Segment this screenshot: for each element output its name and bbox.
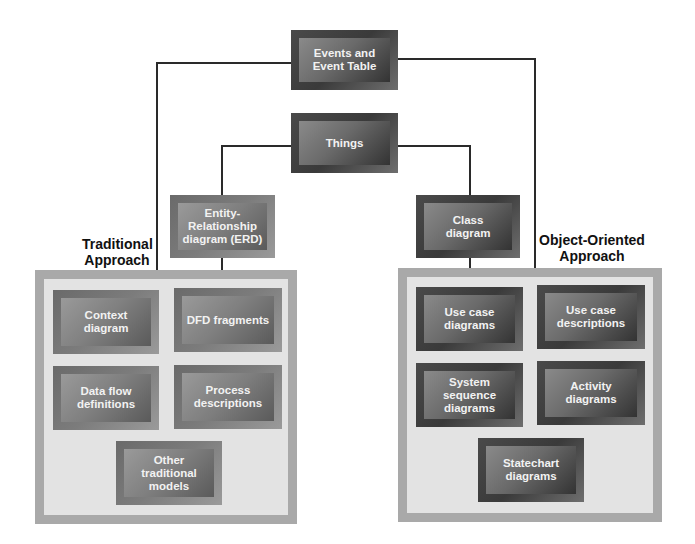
class-node: Class diagram — [416, 195, 520, 258]
connector-events-to-traditional-vertical — [156, 62, 158, 270]
other-traditional-models-label: Other traditional models — [124, 449, 214, 497]
connector-events-to-oo-vertical — [534, 58, 536, 268]
dfd-fragments-label: DFD fragments — [182, 296, 274, 344]
connector-events-to-oo — [398, 58, 535, 60]
context-diagram-node: Context diagram — [53, 290, 159, 354]
erd-label: Entity- Relationship diagram (ERD) — [178, 203, 267, 250]
other-traditional-models-node: Other traditional models — [116, 441, 222, 505]
activity-diagrams-node: Activity diagrams — [537, 361, 645, 425]
system-sequence-diagrams-label: System sequence diagrams — [424, 371, 515, 419]
data-flow-definitions-node: Data flow definitions — [53, 366, 159, 430]
dfd-fragments-node: DFD fragments — [174, 288, 282, 352]
traditional-container: Context diagram DFD fragments Data flow … — [35, 270, 297, 524]
traditional-approach-label: Traditional Approach — [82, 236, 152, 268]
object-oriented-panel: Use case diagrams Use case descriptions … — [407, 277, 653, 513]
use-case-descriptions-label: Use case descriptions — [545, 293, 637, 341]
events-label: Events and Event Table — [299, 38, 390, 82]
connector-events-to-traditional — [156, 62, 292, 64]
statechart-diagrams-label: Statechart diagrams — [486, 446, 576, 494]
activity-diagrams-label: Activity diagrams — [545, 369, 637, 417]
use-case-descriptions-node: Use case descriptions — [537, 285, 645, 349]
things-label: Things — [299, 121, 390, 165]
context-diagram-label: Context diagram — [61, 298, 151, 346]
connector-things-to-class — [398, 145, 470, 147]
use-case-diagrams-node: Use case diagrams — [416, 287, 523, 351]
connector-erd-to-traditional — [221, 258, 223, 270]
connector-things-to-class-vertical — [469, 145, 471, 195]
things-node: Things — [291, 113, 398, 173]
process-descriptions-label: Process descriptions — [182, 373, 274, 421]
process-descriptions-node: Process descriptions — [174, 365, 282, 429]
connector-class-to-oo — [469, 258, 471, 268]
object-oriented-approach-label: Object-Oriented Approach — [537, 232, 647, 264]
statechart-diagrams-node: Statechart diagrams — [478, 438, 584, 502]
events-node: Events and Event Table — [291, 30, 398, 90]
traditional-panel: Context diagram DFD fragments Data flow … — [44, 279, 288, 515]
data-flow-definitions-label: Data flow definitions — [61, 374, 151, 422]
connector-things-to-erd — [221, 145, 292, 147]
erd-node: Entity- Relationship diagram (ERD) — [170, 195, 275, 258]
connector-things-to-erd-vertical — [221, 145, 223, 195]
class-label: Class diagram — [424, 203, 512, 250]
use-case-diagrams-label: Use case diagrams — [424, 295, 515, 343]
system-sequence-diagrams-node: System sequence diagrams — [416, 363, 523, 427]
object-oriented-container: Use case diagrams Use case descriptions … — [398, 268, 662, 522]
